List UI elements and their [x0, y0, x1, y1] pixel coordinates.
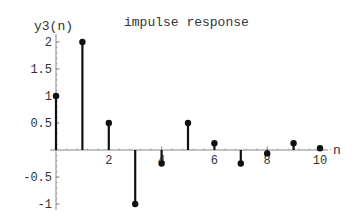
x-axis-label: n	[333, 143, 341, 158]
stem-marker	[106, 120, 112, 126]
x-tick-label: 2	[105, 154, 112, 168]
chart-title: impulse response	[124, 15, 249, 30]
stem-marker	[53, 93, 59, 99]
stem-chart: y3(n) impulse response n -1-0.50.511.522…	[0, 0, 360, 222]
stem-marker	[211, 140, 217, 146]
stem-marker	[185, 120, 191, 126]
stem-marker	[238, 160, 244, 166]
stem-marker	[317, 145, 323, 151]
stem-marker	[264, 150, 270, 156]
y-tick-label: 1.5	[30, 63, 52, 77]
y-tick-label: -1	[38, 198, 52, 212]
y-tick-label: -0.5	[23, 171, 52, 185]
y-tick-label: 2	[45, 36, 52, 50]
stem-marker	[79, 39, 85, 45]
y-tick-label: 0.5	[30, 117, 52, 131]
y-axis-label: y3(n)	[34, 19, 73, 34]
x-tick-label: 10	[313, 154, 327, 168]
stem-marker	[290, 140, 296, 146]
stem-marker	[132, 201, 138, 207]
stem-marker	[158, 160, 164, 166]
ticks: -1-0.50.511.52246810	[23, 36, 330, 212]
stems	[53, 39, 323, 207]
y-tick-label: 1	[45, 90, 52, 104]
x-tick-label: 6	[211, 154, 218, 168]
